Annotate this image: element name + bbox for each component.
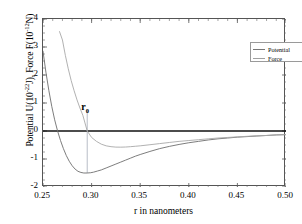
legend-label-force: Force — [268, 55, 282, 62]
y-axis-label-exp1: -22 — [23, 84, 30, 92]
y-axis-label-exp2: -12 — [23, 23, 30, 31]
x-tick-label: 0.45 — [216, 190, 256, 200]
x-axis-tick-labels: 0.250.300.350.400.450.50 — [0, 190, 302, 204]
x-tick-label: 0.50 — [265, 190, 302, 200]
y-axis-label: Potential U(10-22J), Force F(10-12N) — [23, 0, 35, 165]
x-axis-label: r in nanometers — [42, 206, 285, 216]
plot-area: Potential Force r0 — [42, 18, 285, 186]
y-axis-label-seg3: N) — [25, 14, 35, 24]
x-tick-label: 0.25 — [22, 190, 62, 200]
y-axis-label-seg1: Potential U(10 — [25, 92, 35, 146]
x-tick-label: 0.40 — [168, 190, 208, 200]
legend-swatch-force — [253, 58, 265, 59]
annotation-r0: r0 — [81, 101, 89, 114]
legend: Potential Force — [250, 42, 302, 62]
legend-item-force: Force — [253, 54, 302, 62]
legend-swatch-potential — [253, 49, 265, 50]
x-tick-label: 0.30 — [71, 190, 111, 200]
y-axis-label-seg2: J), Force F(10 — [25, 32, 35, 84]
x-tick-label: 0.35 — [119, 190, 159, 200]
legend-label-potential: Potential — [268, 46, 290, 53]
annotation-r0-sub: 0 — [86, 107, 89, 114]
legend-item-potential: Potential — [253, 45, 302, 53]
chart-figure: 43210-1-2 Potential U(10-22J), Force F(1… — [0, 0, 302, 224]
y-tick-label: -2 — [2, 181, 38, 190]
